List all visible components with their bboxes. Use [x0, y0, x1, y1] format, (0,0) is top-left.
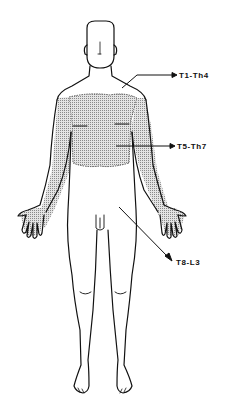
right-torso-leg-outer	[108, 132, 137, 393]
left-torso-leg-outer	[68, 132, 98, 393]
arrowhead-t5-th7	[170, 144, 175, 149]
left-knee	[80, 292, 91, 294]
dermatome-diagram: T1-Th4 T5-Th7 T8-L3	[0, 0, 225, 409]
groin	[96, 215, 104, 230]
right-knee	[115, 292, 126, 294]
arrowhead-t1-th4	[172, 73, 177, 78]
shaded-chest-region	[69, 94, 137, 167]
label-t1-th4: T1-Th4	[179, 71, 209, 80]
head	[87, 21, 114, 68]
nose	[98, 42, 101, 54]
body-figure	[0, 0, 225, 409]
label-t8-l3: T8-L3	[176, 258, 200, 267]
arrowhead-t8-l3	[165, 253, 172, 261]
label-t5-th7: T5-Th7	[177, 142, 207, 151]
